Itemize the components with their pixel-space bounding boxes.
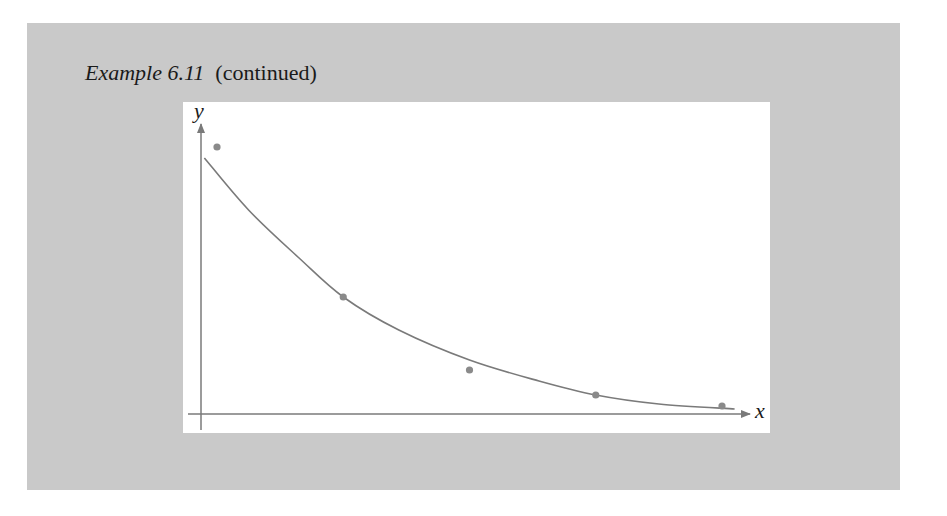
chart-svg: x y	[0, 0, 947, 516]
data-point	[592, 391, 599, 398]
data-point	[340, 293, 347, 300]
x-axis-label: x	[754, 398, 765, 423]
data-point	[466, 366, 473, 373]
data-points	[213, 143, 725, 409]
data-point	[213, 143, 220, 150]
data-point	[718, 402, 725, 409]
y-axis-label: y	[192, 98, 204, 123]
